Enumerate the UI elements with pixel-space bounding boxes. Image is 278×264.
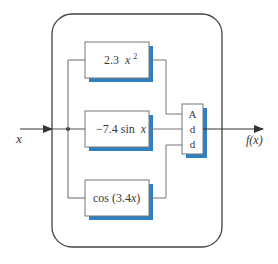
block-bottom: cos (3.4x) xyxy=(85,180,153,220)
adder-block: A d d xyxy=(182,104,207,158)
output-label: f(x) xyxy=(246,133,263,147)
connector-bottom xyxy=(149,145,182,198)
connector-top xyxy=(149,60,182,114)
block-bottom-coef: cos (3.4 xyxy=(93,191,131,205)
adder-letter-3: d xyxy=(190,138,196,150)
svg-text:cos (3.4x): cos (3.4x) xyxy=(93,191,140,205)
block-diagram: 2.3 x 2 −7.4 sin x cos (3.4x) A d d x f(… xyxy=(0,0,278,264)
adder-letter-1: A xyxy=(189,108,197,120)
block-middle-var: x xyxy=(140,122,147,136)
adder-letter-2: d xyxy=(190,123,196,135)
block-middle: −7.4 sin x xyxy=(85,111,153,151)
block-middle-coef: −7.4 sin xyxy=(96,122,135,136)
svg-text:2.3 x 2: 2.3 x 2 xyxy=(104,52,137,67)
input-label: x xyxy=(15,131,22,146)
block-bottom-close: ) xyxy=(136,191,140,205)
block-top-var: x xyxy=(124,53,131,67)
block-top-coef: 2.3 xyxy=(104,53,119,67)
block-top-exp: 2 xyxy=(133,52,137,61)
block-top: 2.3 x 2 xyxy=(85,42,153,82)
